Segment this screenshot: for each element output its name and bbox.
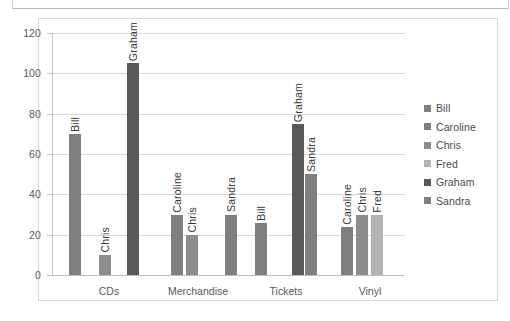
legend-item-fred[interactable]: Fred [424,155,476,174]
bar-value-label: Bill [255,206,267,221]
bar-rect [255,223,267,275]
y-axis-tick-label: 20 [11,229,41,241]
bar: Chris [99,255,111,275]
bar-value-label: Chris [356,187,368,213]
bar: Graham [127,63,139,275]
x-axis-category-label: CDs [99,285,119,297]
bar-value-label: Caroline [341,184,353,225]
bar-rect [171,215,183,276]
bar-value-label: Bill [69,117,81,132]
legend-item-chris[interactable]: Chris [424,136,476,155]
x-axis-category-label: Tickets [270,285,303,297]
y-axis-tick-label: 60 [11,148,41,160]
bar: Chris [356,215,368,276]
legend-label: Fred [436,158,458,170]
legend-item-bill[interactable]: Bill [424,99,476,118]
bar-value-label: Caroline [171,172,183,213]
x-axis-category-label: Merchandise [168,285,228,297]
legend-swatch-icon [424,105,431,112]
y-tick-mark [47,154,52,155]
x-axis-baseline [52,275,404,276]
legend-swatch-icon [424,197,431,204]
y-axis-tick-label: 40 [11,188,41,200]
bar: Caroline [171,215,183,276]
bar-rect [356,215,368,276]
y-tick-mark [47,33,52,34]
y-tick-mark [47,73,52,74]
bar-chart: 020406080100120 BillChrisGrahamCarolineC… [0,0,510,321]
bar-value-label: Chris [186,207,198,233]
legend-item-sandra[interactable]: Sandra [424,192,476,211]
x-axis-category-label: Vinyl [359,285,382,297]
bar: Fred [371,215,383,276]
bar-rect [186,235,198,275]
bar-rect [371,215,383,276]
bar-rect [127,63,139,275]
y-tick-mark [47,114,52,115]
bar-value-label: Graham [292,83,304,122]
y-axis-tick-label: 0 [11,269,41,281]
gridline [53,33,405,34]
legend-label: Bill [436,102,450,114]
legend-swatch-icon [424,123,431,130]
bar-rect [69,134,81,275]
legend-item-caroline[interactable]: Caroline [424,118,476,137]
bar-value-label: Chris [99,227,111,253]
bar: Bill [69,134,81,275]
bar-value-label: Fred [371,190,383,212]
legend-swatch-icon [424,179,431,186]
legend-label: Caroline [436,121,476,133]
bar-rect [225,215,237,276]
y-tick-mark [47,194,52,195]
chart-legend: BillCarolineChrisFredGrahamSandra [424,99,476,210]
bar: Bill [255,223,267,275]
bar: Sandra [305,174,317,275]
bar: Graham [292,124,304,275]
bar: Chris [186,235,198,275]
legend-label: Chris [436,139,461,151]
legend-item-graham[interactable]: Graham [424,173,476,192]
gridline [53,154,405,155]
bar-rect [305,174,317,275]
bar: Sandra [225,215,237,276]
y-tick-mark [47,235,52,236]
bar-rect [99,255,111,275]
legend-swatch-icon [424,142,431,149]
y-axis-tick-label: 120 [11,27,41,39]
bar-value-label: Graham [127,22,139,61]
bar-value-label: Sandra [305,137,317,172]
legend-label: Graham [436,176,475,188]
bar-rect [292,124,304,275]
bar-rect [341,227,353,275]
y-axis-tick-label: 80 [11,108,41,120]
bar-value-label: Sandra [225,177,237,212]
legend-label: Sandra [436,195,470,207]
gridline [53,114,405,115]
bar: Caroline [341,227,353,275]
y-axis-tick-label: 100 [11,67,41,79]
gridline [53,73,405,74]
legend-swatch-icon [424,160,431,167]
